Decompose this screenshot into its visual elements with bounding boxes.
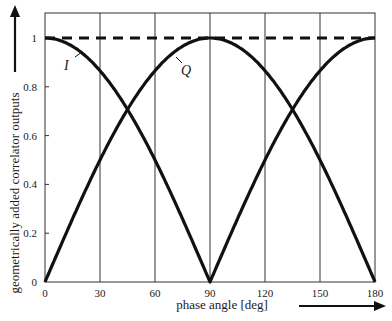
y-axis-arrow-icon [10, 5, 20, 72]
y-tick-label: 1 [32, 32, 38, 44]
x-tick-label: 0 [42, 287, 48, 299]
x-tick-label: 60 [150, 287, 162, 299]
y-tick-label: 0 [32, 276, 38, 288]
y-tick-label: 0.8 [23, 81, 37, 93]
chart: 00.20.40.60.81 0306090120150180 IQ phase… [0, 0, 392, 321]
series-Q-label: Q [181, 63, 191, 78]
x-axis-arrow-icon [299, 301, 386, 311]
series-I-label: I [63, 58, 70, 73]
vertical-gridlines [100, 13, 320, 282]
y-tick-label: 0.2 [23, 227, 37, 239]
y-tick-label: 0.6 [23, 130, 37, 142]
x-axis-label: phase angle [deg] [176, 297, 268, 312]
y-axis-label: geometrically added correlator outputs [7, 92, 22, 293]
x-tick-label: 30 [95, 287, 107, 299]
x-tick-label: 150 [312, 287, 329, 299]
x-tick-label: 180 [367, 287, 384, 299]
y-tick-label: 0.4 [23, 178, 37, 190]
